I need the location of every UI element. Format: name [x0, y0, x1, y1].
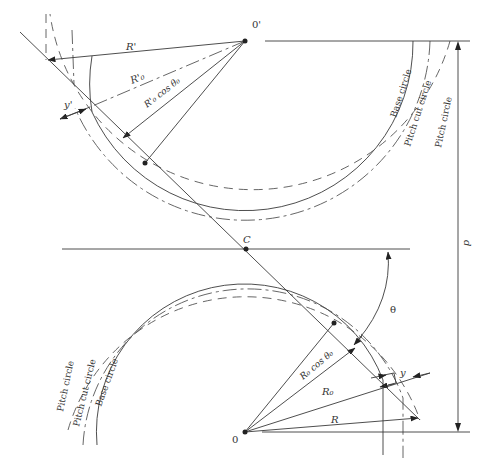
lower-tangent-point: [332, 321, 337, 326]
d-arrow-bottom: [455, 423, 461, 432]
label-y: y: [399, 367, 406, 378]
label-upper-center: 0': [252, 19, 261, 30]
R-prime-0-line: [90, 41, 245, 107]
label-R0-cos: R₀ cos θ₀: [297, 348, 335, 382]
label-R-prime-0-cos: R'₀ cos θ₀: [141, 75, 182, 110]
label-d: d: [462, 240, 473, 246]
upper-base-circle: [92, 41, 413, 211]
upper-tangent-point: [143, 161, 148, 166]
label-R0: R₀: [321, 386, 334, 397]
line-of-action: [20, 32, 420, 420]
upper-gear: [46, 14, 470, 220]
upper-pitch-cut-circle: [75, 41, 430, 220]
lower-tangent-radius: [245, 323, 334, 432]
upper-pitch-cut-top: [72, 30, 74, 84]
theta-arc: [358, 252, 388, 340]
R-prime-0-cos-line: [123, 41, 245, 138]
y-dim-arrow-2: [413, 373, 430, 377]
label-lower-pitch-circle: Pitch circle: [55, 360, 76, 413]
upper-pitch-circle: [50, 14, 450, 190]
upper-tangent-radius: [145, 41, 245, 163]
label-upper-base-circle: Base circle: [388, 68, 413, 119]
label-R-prime: R': [125, 41, 136, 52]
y-prime-dim-2: [60, 109, 86, 119]
label-theta: θ: [390, 304, 396, 315]
lower-gear: [68, 284, 470, 458]
lower-base-circle: [96, 284, 383, 455]
label-pitch-point: C: [243, 234, 251, 245]
label-lower-center: 0: [232, 434, 238, 445]
label-lower-base-circle: Base circle: [93, 357, 120, 408]
label-lower-pitch-cut-circle: Pitch cut circle: [71, 358, 97, 427]
d-arrow-top: [455, 41, 461, 50]
R-prime-line: [48, 41, 245, 60]
lower-pitch-circle: [68, 297, 420, 430]
label-R: R: [330, 414, 339, 425]
pitch-point: [244, 247, 249, 252]
lower-center-point: [243, 430, 248, 435]
label-upper-pitch-circle: Pitch circle: [433, 96, 454, 149]
upper-base-circle-ext: [90, 56, 92, 112]
gear-mesh-diagram: 0' 0 C R' R'₀ R'₀ cos θ₀ y' R R₀ R₀ cos …: [0, 0, 490, 463]
upper-center-point: [243, 39, 248, 44]
label-y-prime: y': [63, 99, 72, 110]
y-dim-arrow-1: [371, 375, 386, 378]
